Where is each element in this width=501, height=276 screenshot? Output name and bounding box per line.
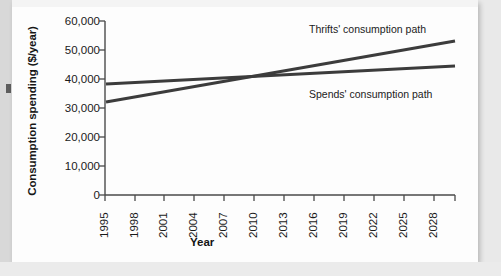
x-tick-label: 1998 bbox=[128, 212, 140, 238]
x-tick-label: 2019 bbox=[337, 212, 349, 238]
line-chart: Consumption spending ($/year) 60,000 50,… bbox=[0, 0, 501, 276]
x-tick-label: 2001 bbox=[157, 212, 169, 238]
x-axis-title: Year bbox=[190, 236, 214, 248]
series-annotation-spends: Spends' consumption path bbox=[309, 88, 432, 100]
x-tick-label: 2010 bbox=[247, 212, 259, 238]
series-line-spends bbox=[106, 66, 455, 84]
x-tick-label: 2016 bbox=[307, 212, 319, 238]
x-tick-label: 1995 bbox=[98, 212, 110, 238]
x-tick-label: 2004 bbox=[187, 212, 199, 238]
x-tick-label: 2013 bbox=[277, 212, 289, 238]
x-tick-label: 2022 bbox=[367, 212, 379, 238]
x-tick-label: 2007 bbox=[217, 212, 229, 238]
x-axis-ticks bbox=[105, 195, 455, 201]
y-axis-ticks bbox=[99, 21, 105, 195]
x-tick-label: 2025 bbox=[397, 212, 409, 238]
x-tick-label: 2028 bbox=[427, 212, 439, 238]
series-annotation-thrifts: Thrifts' consumption path bbox=[309, 23, 426, 35]
